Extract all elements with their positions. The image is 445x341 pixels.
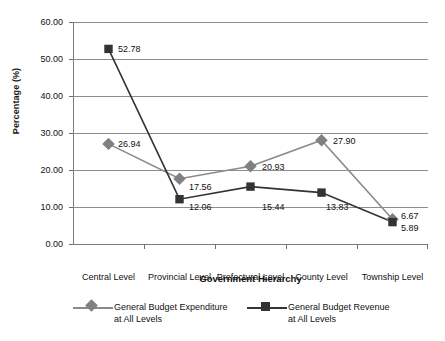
data-label-revenue-township: 5.89: [401, 223, 419, 233]
series-expenditure-markers: [102, 134, 398, 225]
y-tick-label-20: 20.00: [19, 166, 63, 175]
series-layer: [73, 22, 428, 245]
chart-legend: General Budget Expenditure at All Levels…: [72, 296, 402, 325]
data-label-expenditure-central: 26.94: [118, 139, 141, 149]
y-tick-label-40: 40.00: [19, 92, 63, 101]
legend-swatch-square-icon: [246, 296, 288, 320]
data-label-expenditure-county: 27.90: [333, 136, 356, 146]
data-label-revenue-provincial: 12.06: [189, 202, 212, 212]
legend-label-revenue-line2: at All Levels: [288, 313, 390, 325]
x-axis-title: Government Hierarchy: [73, 273, 428, 284]
legend-label-expenditure-line2: at All Levels: [114, 313, 228, 325]
data-label-expenditure-provincial: 17.56: [189, 182, 212, 192]
legend-entry-expenditure[interactable]: General Budget Expenditure at All Levels: [72, 296, 228, 325]
data-label-revenue-central: 52.78: [118, 44, 141, 54]
legend-label-revenue: General Budget Revenue at All Levels: [288, 296, 390, 325]
y-tick-label-30: 30.00: [19, 129, 63, 138]
data-label-expenditure-township: 6.67: [401, 211, 419, 221]
data-label-expenditure-prefectural: 20.93: [262, 162, 285, 172]
legend-label-expenditure-line1: General Budget Expenditure: [114, 301, 228, 313]
y-tick-label-0: 0.00: [19, 240, 63, 249]
legend-entry-revenue[interactable]: General Budget Revenue at All Levels: [246, 296, 402, 325]
y-tick-label-10: 10.00: [19, 203, 63, 212]
data-label-revenue-county: 13.83: [326, 202, 349, 212]
plot-area: 52.78 26.94 17.56 12.06 20.93 15.44 27.9…: [73, 22, 428, 245]
line-chart: Percentage (%) 60.00 50.00 40.00 30.00 2…: [0, 0, 445, 341]
y-tick-label-50: 50.00: [19, 55, 63, 64]
data-label-revenue-prefectural: 15.44: [262, 202, 285, 212]
legend-label-revenue-line1: General Budget Revenue: [288, 301, 390, 313]
legend-swatch-diamond-icon: [72, 296, 114, 320]
legend-label-expenditure: General Budget Expenditure at All Levels: [114, 296, 228, 325]
series-expenditure-line: [109, 140, 393, 219]
y-tick-label-60: 60.00: [19, 18, 63, 27]
